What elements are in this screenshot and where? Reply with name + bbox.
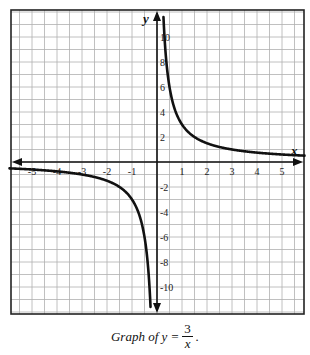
x-tick-label: 3 bbox=[230, 166, 235, 177]
y-tick-label: 8 bbox=[160, 57, 165, 68]
x-tick-label: 4 bbox=[255, 166, 260, 177]
fraction-denominator: x bbox=[185, 337, 191, 351]
y-tick-label: -10 bbox=[160, 282, 173, 293]
curve-negative-branch bbox=[10, 168, 151, 306]
y-axis-label: y bbox=[141, 11, 149, 26]
x-axis-label: x bbox=[290, 143, 298, 158]
chart-caption: Graph of y = 3 x . bbox=[0, 318, 310, 355]
fraction: 3 x bbox=[182, 322, 193, 351]
caption-suffix: . bbox=[196, 329, 199, 345]
x-tick-label: -5 bbox=[28, 166, 36, 177]
x-tick-label: 2 bbox=[205, 166, 210, 177]
y-tick-label: 6 bbox=[160, 82, 165, 93]
x-tick-label: -2 bbox=[103, 166, 111, 177]
curve-positive-branch bbox=[163, 17, 304, 156]
fraction-numerator: 3 bbox=[182, 322, 193, 337]
y-tick-label: -4 bbox=[160, 207, 168, 218]
y-tick-label: -6 bbox=[160, 232, 168, 243]
x-tick-label: -1 bbox=[128, 166, 136, 177]
y-tick-label: -8 bbox=[160, 257, 168, 268]
y-tick-label: 4 bbox=[160, 107, 165, 118]
y-tick-label: 2 bbox=[160, 132, 165, 143]
caption-prefix: Graph of y = bbox=[111, 329, 179, 345]
y-tick-label: -2 bbox=[160, 182, 168, 193]
axes bbox=[12, 11, 303, 313]
x-tick-label: 1 bbox=[180, 166, 185, 177]
x-tick-label: 5 bbox=[280, 166, 285, 177]
hyperbola-chart: -5-4-3-2-112345-10-8-6-4-2246810 x y bbox=[0, 0, 310, 318]
